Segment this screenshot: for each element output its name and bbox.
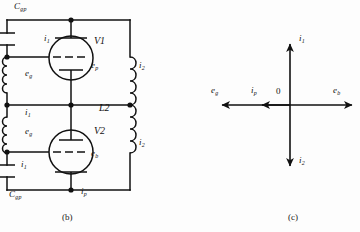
label-phasor-i1: i1 xyxy=(299,33,305,43)
label-ip-circuit: ip xyxy=(81,186,87,196)
label-capacitor-top: Cgp xyxy=(14,1,27,11)
phasor-diagram xyxy=(222,44,352,166)
inductor-left-upper xyxy=(3,57,8,93)
caption-panel-c: (c) xyxy=(288,212,298,222)
inductor-right-upper xyxy=(130,57,136,105)
label-i2-upper: i2 xyxy=(139,60,145,70)
figure-canvas xyxy=(0,0,360,232)
label-phasor-ip: ip xyxy=(251,85,257,95)
label-i2-lower: i2 xyxy=(139,137,145,147)
capacitor-top xyxy=(0,33,15,45)
label-eb-circuit: eb xyxy=(91,148,98,158)
label-capacitor-bottom: Cgp xyxy=(9,189,22,199)
tube-v2 xyxy=(7,105,93,190)
label-i1-top: i1 xyxy=(44,33,50,43)
label-i1-middle: i1 xyxy=(25,107,31,117)
label-phasor-i2: i2 xyxy=(299,155,305,165)
label-tube-v2: V2 xyxy=(94,125,105,136)
label-eg-upper: eg xyxy=(25,68,32,78)
label-phasor-origin: 0 xyxy=(276,86,281,96)
label-phasor-eg: eg xyxy=(211,85,218,95)
capacitor-bottom xyxy=(0,165,15,177)
label-ep: ep xyxy=(91,60,98,70)
label-i1-bottom: i1 xyxy=(21,159,27,169)
label-phasor-eb: eb xyxy=(333,85,340,95)
inductor-right-lower xyxy=(130,105,136,153)
label-eg-lower: eg xyxy=(25,126,32,136)
label-inductor-l2: L2 xyxy=(99,102,110,113)
caption-panel-b: (b) xyxy=(62,212,73,222)
label-tube-v1: V1 xyxy=(94,35,105,46)
tube-v1 xyxy=(7,20,93,105)
inductor-left-lower xyxy=(3,117,8,153)
